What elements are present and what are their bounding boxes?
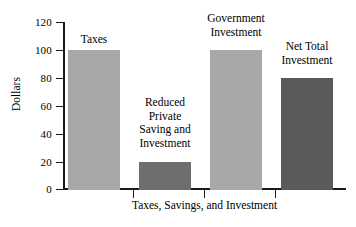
y-tick-20 bbox=[56, 162, 64, 163]
bar-taxes[interactable] bbox=[68, 50, 120, 190]
bar-label-government-investment: Government Investment bbox=[191, 12, 281, 39]
y-axis-title: Dollars bbox=[10, 54, 22, 134]
y-tick-label-120: 120 bbox=[18, 17, 52, 28]
y-tick-label-40: 40 bbox=[18, 129, 52, 140]
y-tick-40 bbox=[56, 134, 64, 135]
y-tick-label-100: 100 bbox=[18, 45, 52, 56]
y-tick-label-20: 20 bbox=[18, 157, 52, 168]
bar-label-net-total-investment: Net Total Investment bbox=[266, 40, 348, 67]
x-axis-title: Taxes, Savings, and Investment bbox=[63, 199, 346, 212]
bar-chart: 120 100 80 60 40 20 0 Dollars Taxes, Sav… bbox=[0, 0, 356, 227]
bar-reduced-private-saving-and-investment[interactable] bbox=[139, 162, 191, 190]
bar-net-total-investment[interactable] bbox=[281, 78, 333, 190]
x-tick-separator-3 bbox=[275, 190, 276, 198]
y-tick-label-80: 80 bbox=[18, 73, 52, 84]
bar-label-taxes: Taxes bbox=[58, 33, 130, 47]
y-tick-100 bbox=[56, 50, 64, 51]
y-tick-60 bbox=[56, 106, 64, 107]
y-tick-label-0: 0 bbox=[18, 184, 52, 195]
bar-government-investment[interactable] bbox=[210, 50, 262, 190]
bar-label-reduced-private-saving-and-investment: Reduced Private Saving and Investment bbox=[122, 96, 208, 150]
y-tick-0 bbox=[56, 189, 64, 190]
x-tick-separator-1 bbox=[133, 190, 134, 198]
y-tick-80 bbox=[56, 78, 64, 79]
y-tick-label-60: 60 bbox=[18, 101, 52, 112]
x-tick-separator-2 bbox=[204, 190, 205, 198]
y-tick-120 bbox=[56, 22, 64, 23]
